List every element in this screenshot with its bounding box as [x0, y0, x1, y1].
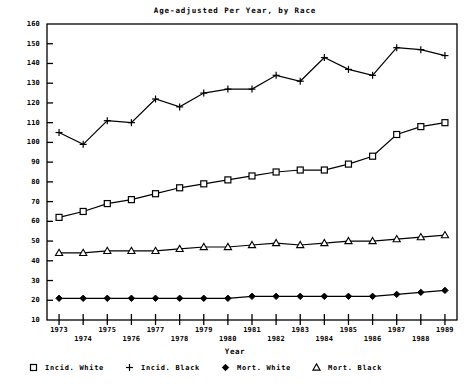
data-point-plus: [176, 103, 183, 110]
data-point-square: [273, 169, 279, 175]
data-point-square: [345, 161, 351, 167]
x-axis-tick-label: 1976: [119, 335, 143, 343]
x-axis-tick-label: 1989: [433, 326, 457, 334]
legend-entry: Incid. White: [28, 362, 104, 373]
data-point-square: [442, 120, 448, 126]
data-point-square: [31, 365, 37, 371]
x-axis-tick-label: 1973: [47, 326, 71, 334]
x-axis-tick-label: 1978: [168, 335, 192, 343]
x-axis-tick-label: 1983: [288, 326, 312, 334]
x-axis-tick-label: 1986: [361, 335, 385, 343]
legend-entry: Mort. Black: [311, 362, 382, 373]
x-axis-tick-label: 1980: [216, 335, 240, 343]
data-point-square: [394, 132, 400, 138]
x-axis-tick-label: 1981: [240, 326, 264, 334]
data-point-square: [177, 185, 183, 191]
series-line-plus: [59, 48, 445, 145]
data-point-square: [153, 191, 159, 197]
data-point-plus: [249, 86, 256, 93]
legend-label: Mort. Black: [328, 364, 382, 372]
legend-label: Incid. Black: [141, 364, 200, 372]
y-axis-tick-label: 10: [6, 316, 40, 324]
data-point-square: [297, 167, 303, 173]
y-axis-tick-label: 40: [6, 257, 40, 265]
y-axis-tick-label: 90: [6, 158, 40, 166]
x-axis-tick-label: 1984: [312, 335, 336, 343]
legend-marker-triangle-icon: [311, 362, 322, 373]
data-point-triangle: [441, 232, 448, 238]
y-axis-tick-label: 150: [6, 40, 40, 48]
data-point-diamond: [442, 287, 448, 293]
legend-entry: Mort. White: [220, 362, 291, 373]
data-point-diamond: [128, 295, 134, 301]
data-point-diamond: [321, 293, 327, 299]
legend-marker-square-icon: [28, 362, 39, 373]
data-point-plus: [417, 46, 424, 53]
x-axis-tick-label: 1985: [336, 326, 360, 334]
y-axis-tick-label: 70: [6, 198, 40, 206]
chart-legend: Incid. WhiteIncid. BlackMort. WhiteMort.…: [28, 362, 458, 373]
series-line-square: [59, 123, 445, 218]
data-point-square: [56, 214, 62, 220]
data-point-square: [80, 208, 86, 214]
data-point-square: [418, 124, 424, 130]
x-axis-title: Year: [0, 347, 470, 356]
x-axis-tick-label: 1979: [192, 326, 216, 334]
y-axis-tick-label: 50: [6, 237, 40, 245]
y-axis-tick-label: 80: [6, 178, 40, 186]
legend-marker-plus-icon: [124, 362, 135, 373]
data-point-square: [128, 197, 134, 203]
y-axis-tick-label: 110: [6, 119, 40, 127]
legend-label: Mort. White: [237, 364, 291, 372]
data-point-diamond: [104, 295, 110, 301]
x-axis-tick-label: 1975: [95, 326, 119, 334]
data-point-diamond: [418, 289, 424, 295]
data-point-plus: [345, 66, 352, 73]
data-point-diamond: [152, 295, 158, 301]
data-point-square: [370, 153, 376, 159]
y-axis-tick-label: 20: [6, 296, 40, 304]
data-point-plus: [441, 52, 448, 59]
x-axis-tick-label: 1974: [71, 335, 95, 343]
y-axis-tick-label: 140: [6, 59, 40, 67]
y-axis-tick-label: 30: [6, 277, 40, 285]
data-point-diamond: [297, 293, 303, 299]
data-point-diamond: [249, 293, 255, 299]
legend-label: Incid. White: [45, 364, 104, 372]
chart-figure: Age-adjusted Per Year, by Race 102030405…: [0, 0, 470, 387]
x-axis-tick-label: 1977: [144, 326, 168, 334]
x-axis-tick-label: 1987: [385, 326, 409, 334]
data-point-square: [249, 173, 255, 179]
data-point-square: [104, 201, 110, 207]
data-point-diamond: [222, 364, 228, 370]
data-point-diamond: [394, 291, 400, 297]
data-point-square: [201, 181, 207, 187]
y-axis-tick-label: 100: [6, 138, 40, 146]
data-point-plus: [224, 86, 231, 93]
data-point-triangle: [273, 239, 280, 245]
data-point-plus: [56, 129, 63, 136]
data-point-diamond: [225, 295, 231, 301]
data-point-triangle: [313, 364, 320, 370]
data-point-diamond: [56, 295, 62, 301]
x-axis-tick-label: 1982: [264, 335, 288, 343]
legend-marker-diamond-icon: [220, 362, 231, 373]
legend-entry: Incid. Black: [124, 362, 200, 373]
data-point-diamond: [273, 293, 279, 299]
data-point-plus: [273, 72, 280, 79]
data-point-plus: [126, 364, 133, 371]
y-axis-tick-label: 120: [6, 99, 40, 107]
data-point-diamond: [345, 293, 351, 299]
y-axis-tick-label: 130: [6, 79, 40, 87]
y-axis-tick-label: 60: [6, 217, 40, 225]
data-point-diamond: [369, 293, 375, 299]
x-axis-tick-label: 1988: [409, 335, 433, 343]
plot-frame: [47, 24, 457, 320]
y-axis-tick-label: 160: [6, 20, 40, 28]
data-point-square: [321, 167, 327, 173]
data-point-square: [225, 177, 231, 183]
data-point-diamond: [80, 295, 86, 301]
data-point-diamond: [201, 295, 207, 301]
data-point-diamond: [176, 295, 182, 301]
data-point-plus: [200, 90, 207, 97]
